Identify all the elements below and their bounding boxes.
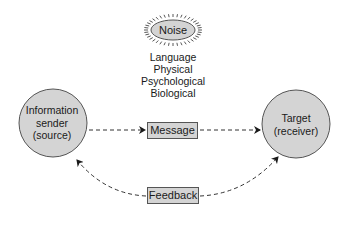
- noise-factor: Psychological: [128, 75, 218, 87]
- edge-feedback-sender: [77, 160, 146, 196]
- noise-label: Noise: [151, 23, 195, 37]
- sender-label-line: (source): [20, 129, 84, 142]
- message-box: Message: [147, 122, 198, 139]
- target-label: Target (receiver): [262, 112, 330, 137]
- target-label-line: (receiver): [262, 125, 330, 138]
- noise-factor: Language: [128, 51, 218, 63]
- edge-feedback-target: [200, 157, 278, 196]
- target-label-line: Target: [262, 112, 330, 125]
- sender-label-line: sender: [20, 117, 84, 130]
- sender-label: Information sender (source): [20, 104, 84, 142]
- noise-factor: Physical: [128, 63, 218, 75]
- feedback-box: Feedback: [147, 187, 199, 204]
- noise-factor: Biological: [128, 87, 218, 99]
- sender-label-line: Information: [20, 104, 84, 117]
- noise-factors-list: Language Physical Psychological Biologic…: [128, 51, 218, 99]
